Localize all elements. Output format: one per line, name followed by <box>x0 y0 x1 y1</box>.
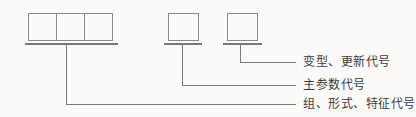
code-box-cell <box>29 14 56 40</box>
leader-line-variant <box>240 45 296 63</box>
code-box-right <box>227 13 258 41</box>
code-box-middle <box>168 13 199 41</box>
label-group-form-feature-code: 组、形式、特征代号 <box>303 97 416 111</box>
label-variant-update-code: 变型、更新代号 <box>303 55 391 69</box>
code-box-cell <box>56 14 84 40</box>
code-box-group <box>28 13 113 41</box>
model-code-diagram: 变型、更新代号 主参数代号 组、形式、特征代号 <box>0 0 416 117</box>
label-main-parameter-code: 主参数代号 <box>303 78 366 92</box>
code-box-cell <box>84 14 112 40</box>
